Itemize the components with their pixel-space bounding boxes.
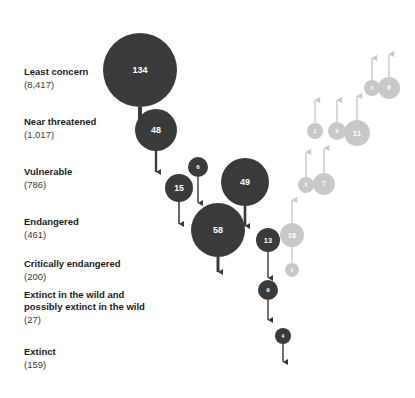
improvement-flow-group: 16357261159 xyxy=(280,54,400,277)
category-name: Vulnerable xyxy=(24,165,72,178)
category-label: Endangered(461) xyxy=(24,215,79,241)
improvement-bubble-value: 5 xyxy=(371,85,374,91)
figure-root: 16357261159 1344861549581394 Least conce… xyxy=(0,0,415,398)
deterioration-bubble-value: 134 xyxy=(132,65,147,75)
category-label: Least concern(8,417) xyxy=(24,65,88,91)
category-count: (461) xyxy=(24,228,79,241)
improvement-flow: 16 xyxy=(280,200,304,247)
improvement-flow: 7 xyxy=(313,148,335,195)
deterioration-bubble-value: 4 xyxy=(282,333,285,339)
improvement-bubble-value: 16 xyxy=(288,231,296,240)
deterioration-flow: 48 xyxy=(135,109,177,172)
deterioration-bubble-value: 15 xyxy=(174,183,184,193)
deterioration-flow: 4 xyxy=(275,328,291,362)
improvement-bubble-value: 11 xyxy=(353,129,362,138)
category-name: Near threatened xyxy=(24,115,96,128)
category-label: Extinct(159) xyxy=(24,345,56,371)
category-name: possibly extinct in the wild xyxy=(24,300,145,313)
deterioration-flow: 58 xyxy=(191,203,245,272)
category-name: Endangered xyxy=(24,215,79,228)
deterioration-flow: 6 xyxy=(188,157,208,203)
deterioration-bubble-value: 49 xyxy=(240,177,250,187)
category-label: Near threatened(1,017) xyxy=(24,115,96,141)
improvement-flow: 5 xyxy=(298,152,314,193)
improvement-flow: 3 xyxy=(285,243,299,277)
improvement-flow: 11 xyxy=(344,96,370,146)
category-label: possibly extinct in the wild(27) xyxy=(24,300,145,326)
improvement-flow: 9 xyxy=(378,54,400,99)
improvement-flow: 2 xyxy=(307,100,323,139)
improvement-bubble-value: 7 xyxy=(322,180,326,187)
category-count: (27) xyxy=(24,313,145,326)
category-count: (159) xyxy=(24,358,56,371)
category-count: (8,417) xyxy=(24,78,88,91)
deterioration-flow: 9 xyxy=(258,280,278,320)
improvement-bubble-value: 2 xyxy=(314,128,317,134)
improvement-flow: 6 xyxy=(328,100,346,140)
category-count: (1,017) xyxy=(24,128,96,141)
category-count: (200) xyxy=(24,270,121,283)
improvement-bubble-value: 3 xyxy=(291,267,294,273)
bubble-flow-chart: 16357261159 1344861549581394 xyxy=(0,0,415,398)
category-label: Vulnerable(786) xyxy=(24,165,72,191)
category-label: Critically endangered(200) xyxy=(24,257,121,283)
category-name: Extinct xyxy=(24,345,56,358)
category-name: Least concern xyxy=(24,65,88,78)
deterioration-bubble-value: 13 xyxy=(264,236,272,245)
improvement-bubble-value: 9 xyxy=(387,84,391,91)
improvement-bubble-value: 6 xyxy=(335,128,338,134)
improvement-bubble-value: 5 xyxy=(305,182,308,188)
improvement-flow: 5 xyxy=(364,58,380,96)
category-count: (786) xyxy=(24,178,72,191)
deterioration-bubble-value: 6 xyxy=(196,163,200,170)
deterioration-flow: 13 xyxy=(256,228,280,278)
deterioration-flow: 134 xyxy=(103,33,177,120)
deterioration-bubble-value: 58 xyxy=(213,225,223,235)
deterioration-bubble-value: 9 xyxy=(266,286,270,293)
category-name: Critically endangered xyxy=(24,257,121,270)
deterioration-flow: 15 xyxy=(165,174,193,224)
deterioration-bubble-value: 48 xyxy=(151,125,161,135)
